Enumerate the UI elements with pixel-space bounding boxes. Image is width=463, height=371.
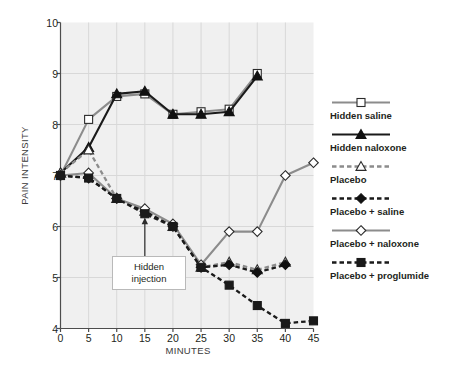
legend-item-label: Placebo + saline <box>330 205 463 218</box>
hidden-injection-annotation: Hidden injection <box>112 256 186 290</box>
y-axis-title: PAIN INTENSITY <box>19 96 30 236</box>
legend-marker-icon <box>330 96 392 109</box>
legend-marker-icon <box>330 224 392 237</box>
legend-item-label: Placebo + naloxone <box>330 237 463 250</box>
x-tick-label: 20 <box>161 332 185 344</box>
x-tick-label: 25 <box>189 332 213 344</box>
x-tick-label: 30 <box>217 332 241 344</box>
legend-item-label: Placebo + proglumide <box>330 269 463 282</box>
chart-legend: Hidden salineHidden naloxonePlaceboPlace… <box>330 96 463 288</box>
legend-item[interactable]: Placebo + proglumide <box>330 256 463 282</box>
legend-marker-icon <box>330 128 392 141</box>
legend-item[interactable]: Placebo + saline <box>330 192 463 218</box>
legend-item[interactable]: Placebo <box>330 160 463 186</box>
legend-item-label: Placebo <box>330 173 463 186</box>
annotation-line-1: Hidden <box>116 261 182 273</box>
x-tick-label: 45 <box>302 332 326 344</box>
x-tick-label: 5 <box>77 332 101 344</box>
x-tick-label: 0 <box>49 332 73 344</box>
legend-item[interactable]: Placebo + naloxone <box>330 224 463 250</box>
chart-figure: 10987654 051015202530354045 PAIN INTENSI… <box>0 0 463 371</box>
x-tick-label: 40 <box>273 332 297 344</box>
legend-marker-icon <box>330 256 392 269</box>
x-tick-label: 15 <box>133 332 157 344</box>
legend-marker-icon <box>330 192 392 205</box>
legend-item[interactable]: Hidden saline <box>330 96 463 122</box>
x-axis-title: MINUTES <box>62 345 314 356</box>
legend-item[interactable]: Hidden naloxone <box>330 128 463 154</box>
legend-marker-icon <box>330 160 392 173</box>
x-tick-label: 10 <box>105 332 129 344</box>
annotation-line-2: injection <box>116 273 182 285</box>
x-tick-label: 35 <box>245 332 269 344</box>
legend-item-label: Hidden naloxone <box>330 141 463 154</box>
legend-item-label: Hidden saline <box>330 109 463 122</box>
